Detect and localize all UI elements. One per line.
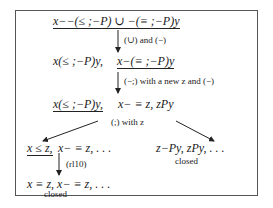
branch-left-head: x ≤ z, <box>27 141 53 156</box>
step4-formula: x ≡ z, x− ≡ z, . . . <box>27 177 110 191</box>
root-formula: x−−(≤ ;−P) ∪ −(≡ ;−P)y <box>53 14 180 29</box>
branch-right-status: closed <box>175 156 198 167</box>
rule-step3: (;) with z <box>111 117 144 128</box>
branch-right-formula: z−Py, zPy, . . . <box>156 141 224 155</box>
step1-left-formula: x(≤ ;−P)y, <box>53 54 103 68</box>
step2-right-formula: x− ≡ z, zPy <box>118 97 174 111</box>
step1-right-formula: x−(≡ ;−P)y <box>117 54 174 69</box>
step2-left-formula: x(≤ ;−P)y, <box>53 97 103 112</box>
rule-step1: (∪) and (−) <box>124 35 166 46</box>
step4-status: closed <box>44 189 67 200</box>
arrow-branch-right <box>176 121 214 141</box>
branch-left-rest: x− ≡ z, . . . <box>58 141 111 155</box>
rule-step4: (rl10) <box>66 159 87 170</box>
rule-step2: (−;) with a new z and (−) <box>124 76 214 87</box>
arrow-branch-left <box>43 121 98 141</box>
